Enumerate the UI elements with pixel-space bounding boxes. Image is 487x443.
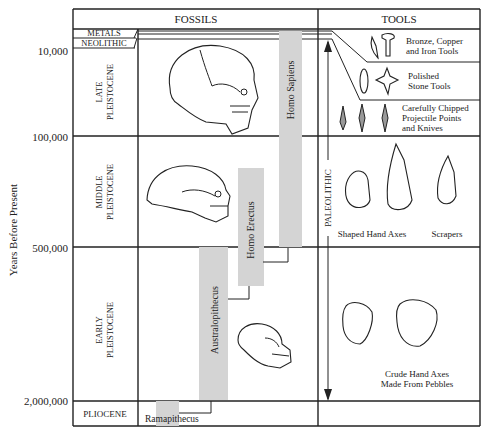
y-axis-label: Years Before Present (7, 184, 19, 276)
bronze-label-2: and Iron Tools (406, 46, 459, 56)
middle-label: MIDDLE (94, 175, 104, 208)
metals-label: METALS (87, 28, 121, 38)
arrow-up-icon (324, 40, 332, 52)
early-label: EARLY (94, 316, 104, 343)
fossils-header: FOSSILS (175, 13, 218, 25)
bronze-tools-icon (371, 34, 394, 58)
crude-label-2: Made From Pebbles (381, 379, 454, 389)
homo-erectus-label: Homo Erectus (245, 201, 256, 259)
tick-10000: 10,000 (38, 45, 69, 57)
human-evolution-timeline: FOSSILS TOOLS METALS NEOLITHIC 10,000 10… (0, 0, 487, 443)
scrapers-label: Scrapers (432, 229, 463, 239)
arrow-down-icon (324, 389, 332, 401)
homo-sapiens-label: Homo Sapiens (285, 61, 296, 120)
chipped-label-2: Projectile Points (402, 113, 462, 123)
tick-500000: 500,000 (32, 242, 68, 254)
late-pleistocene-label: PLEISTOCENE (105, 64, 115, 120)
pliocene-label: PLIOCENE (83, 409, 127, 419)
chipped-label-1: Carefully Chipped (402, 103, 469, 113)
shaped-hand-axes-icon (346, 144, 413, 210)
homo-sapiens-skull-icon (169, 45, 258, 134)
australopithecus-skull-icon (238, 324, 291, 368)
bronze-label-1: Bronze, Copper (406, 36, 463, 46)
middle-pleistocene-label: PLEISTOCENE (105, 164, 115, 220)
australopithecus-label: Australopithecus (209, 286, 220, 354)
neolithic-slant (134, 38, 137, 48)
scraper-icon (437, 156, 456, 204)
ramapithecus-label: Ramapithecus (145, 414, 199, 424)
paleolithic-label: PALEOLITHIC (323, 169, 333, 227)
australo-to-erectus-connector (228, 286, 249, 299)
tools-header: TOOLS (381, 13, 416, 25)
tick-100000: 100,000 (32, 131, 68, 143)
erectus-to-sapiens-connector (263, 248, 288, 262)
crude-hand-axes-icon (343, 300, 437, 346)
polished-label-2: Stone Tools (408, 81, 451, 91)
bronze-diagonal (332, 31, 367, 62)
crude-label-1: Crude Hand Axes (385, 369, 449, 379)
late-label: LATE (94, 82, 104, 103)
polished-label-1: Polished (408, 71, 440, 81)
chipped-label-3: and Knives (402, 123, 443, 133)
rama-to-australo-connector (179, 401, 211, 413)
polished-diagonal (332, 39, 360, 100)
early-pleistocene-label: PLEISTOCENE (105, 302, 115, 358)
polished-stone-tools-icon (360, 68, 398, 94)
tick-2000000: 2,000,000 (24, 395, 69, 407)
homo-erectus-skull-icon (147, 166, 230, 222)
projectile-points-icon (340, 104, 388, 132)
neolithic-label: NEOLITHIC (81, 38, 127, 48)
shaped-hand-axes-label: Shaped Hand Axes (338, 229, 407, 239)
